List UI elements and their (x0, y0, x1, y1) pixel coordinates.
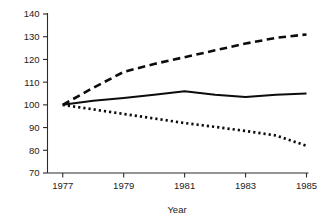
chart-canvas: 708090100110120130140 197719791981198319… (0, 0, 322, 219)
x-tick-label: 1977 (52, 180, 73, 191)
y-tick-label: 110 (24, 77, 39, 88)
y-tick-label: 130 (24, 31, 40, 42)
series-line-dotted-series (63, 105, 307, 146)
y-tick-label: 140 (24, 8, 40, 19)
y-tick-label: 80 (29, 145, 40, 156)
x-tick-label: 1983 (235, 180, 256, 191)
y-tick-label: 90 (29, 122, 40, 133)
y-tick-label: 100 (24, 99, 40, 110)
x-tick-label: 1985 (296, 180, 317, 191)
x-tick-label: 1979 (113, 180, 134, 191)
y-axis-ticks: 708090100110120130140 (24, 8, 48, 178)
axes-group (48, 13, 309, 173)
chart-figure: 708090100110120130140 197719791981198319… (0, 0, 322, 219)
y-tick-label: 120 (24, 54, 40, 65)
series-line-solid-series (63, 91, 307, 105)
data-series-group (63, 34, 307, 145)
x-axis-ticks: 19771979198119831985 (52, 173, 317, 191)
plot-area: 708090100110120130140 197719791981198319… (24, 8, 317, 191)
x-axis-title: Year (167, 204, 186, 215)
y-tick-label: 70 (29, 167, 40, 178)
x-tick-label: 1981 (174, 180, 195, 191)
